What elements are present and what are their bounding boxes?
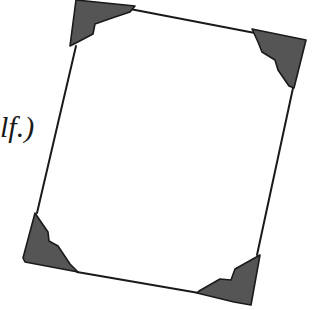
photo-corner-bottom-left bbox=[23, 213, 78, 272]
frame-edges bbox=[37, 9, 293, 293]
photo-corner-top-right bbox=[252, 29, 306, 88]
photo-frame-diagram bbox=[0, 0, 316, 310]
frame-edge-bottom bbox=[77, 272, 199, 293]
photo-corner-top-left bbox=[70, 0, 135, 46]
caption-text: lf.) bbox=[0, 112, 34, 142]
frame-edge-left bbox=[37, 46, 76, 213]
photo-corner-bottom-right bbox=[197, 255, 260, 305]
frame-edge-right bbox=[257, 88, 293, 255]
photo-corners bbox=[23, 0, 306, 305]
frame-edge-top bbox=[130, 9, 255, 33]
